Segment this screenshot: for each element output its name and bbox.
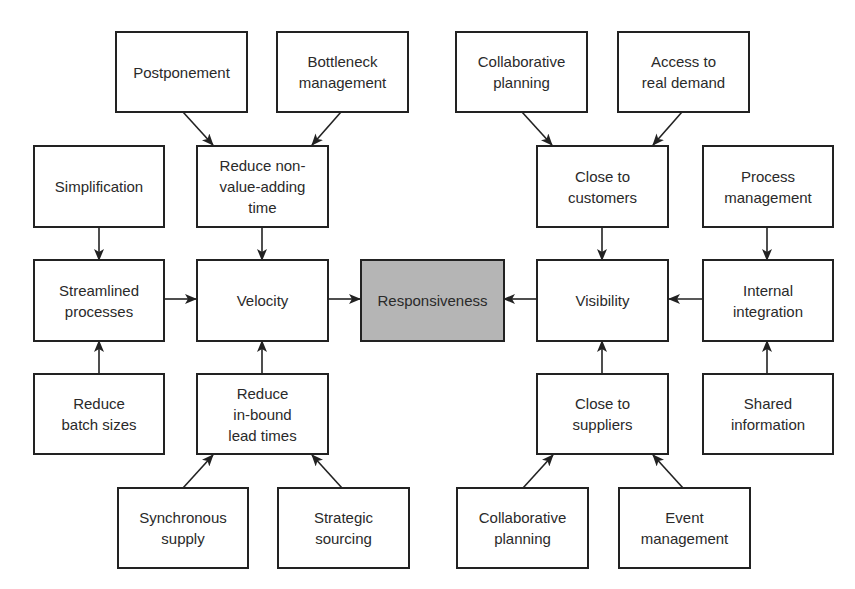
- node-label: Process management: [724, 166, 812, 208]
- node-close-to-suppliers: Close to suppliers: [536, 373, 669, 455]
- arrow-collab-top-to-customers: [522, 112, 552, 145]
- node-internal-integration: Internal integration: [702, 259, 834, 342]
- node-label: Responsiveness: [377, 290, 487, 311]
- node-event-management: Event management: [618, 487, 751, 569]
- node-label: Visibility: [576, 290, 630, 311]
- arrow-synchronous-to-inbound: [183, 455, 213, 488]
- arrow-postponement-to-reduce-nvat: [183, 112, 213, 145]
- node-label: Collaborative planning: [479, 507, 567, 549]
- node-label: Velocity: [237, 290, 289, 311]
- node-visibility: Visibility: [536, 259, 669, 342]
- node-label: Close to suppliers: [572, 393, 632, 435]
- node-close-to-customers: Close to customers: [536, 145, 669, 228]
- responsiveness-diagram: Postponement Bottleneck management Colla…: [0, 0, 855, 589]
- node-reduce-inbound-lead-times: Reduce in-bound lead times: [196, 373, 329, 455]
- node-collaborative-planning-bottom: Collaborative planning: [456, 487, 589, 569]
- node-label: Strategic sourcing: [314, 507, 373, 549]
- node-label: Access to real demand: [642, 51, 725, 93]
- node-label: Simplification: [55, 176, 143, 197]
- node-label: Reduce in-bound lead times: [228, 383, 296, 446]
- node-postponement: Postponement: [115, 31, 248, 113]
- node-access-to-real-demand: Access to real demand: [617, 31, 750, 113]
- node-shared-information: Shared information: [702, 373, 834, 455]
- node-simplification: Simplification: [33, 145, 165, 228]
- node-label: Streamlined processes: [59, 280, 139, 322]
- node-collaborative-planning-top: Collaborative planning: [455, 31, 588, 113]
- arrow-access-demand-to-customers: [653, 112, 682, 145]
- arrow-collab-bottom-to-suppliers: [523, 455, 553, 488]
- node-label: Postponement: [133, 62, 230, 83]
- node-label: Reduce non- value-adding time: [220, 155, 306, 218]
- node-label: Close to customers: [568, 166, 637, 208]
- node-label: Event management: [641, 507, 729, 549]
- node-responsiveness: Responsiveness: [360, 259, 505, 342]
- node-process-management: Process management: [702, 145, 834, 228]
- node-label: Bottleneck management: [299, 51, 387, 93]
- node-bottleneck-management: Bottleneck management: [276, 31, 409, 113]
- node-velocity: Velocity: [196, 259, 329, 342]
- node-reduce-non-value-adding-time: Reduce non- value-adding time: [196, 145, 329, 228]
- node-reduce-batch-sizes: Reduce batch sizes: [33, 373, 165, 455]
- node-label: Collaborative planning: [478, 51, 566, 93]
- node-strategic-sourcing: Strategic sourcing: [277, 487, 410, 569]
- node-label: Reduce batch sizes: [61, 393, 136, 435]
- node-label: Internal integration: [733, 280, 803, 322]
- node-streamlined-processes: Streamlined processes: [33, 259, 165, 342]
- arrow-event-to-suppliers: [653, 455, 683, 488]
- node-synchronous-supply: Synchronous supply: [117, 487, 249, 569]
- arrow-strategic-to-inbound: [312, 455, 342, 488]
- node-label: Synchronous supply: [139, 507, 227, 549]
- arrow-bottleneck-to-reduce-nvat: [312, 112, 341, 145]
- node-label: Shared information: [731, 393, 805, 435]
